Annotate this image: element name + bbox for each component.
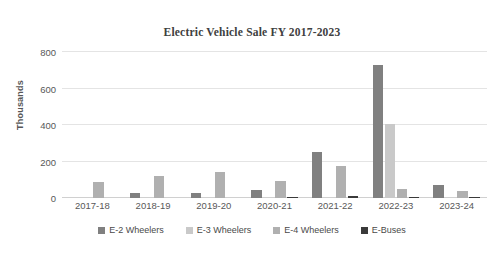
x-tick-label: 2021-22 bbox=[305, 200, 366, 211]
bar-group bbox=[305, 52, 366, 198]
bar-e-buses-2022-23[interactable] bbox=[409, 197, 420, 199]
bar-group bbox=[62, 52, 123, 198]
bar-e-4-wheelers-2022-23[interactable] bbox=[397, 189, 408, 198]
legend-label: E-2 Wheelers bbox=[109, 225, 164, 235]
bar-e-2-wheelers-2020-21[interactable] bbox=[251, 190, 262, 198]
bar-e-4-wheelers-2023-24[interactable] bbox=[457, 191, 468, 198]
legend-swatch-icon bbox=[273, 227, 280, 234]
x-tick-label: 2022-23 bbox=[366, 200, 427, 211]
bar-e-2-wheelers-2021-22[interactable] bbox=[312, 152, 323, 198]
x-tick-label: 2023-24 bbox=[426, 200, 487, 211]
bar-group bbox=[183, 52, 244, 198]
bar-layer bbox=[62, 52, 487, 198]
bar-e-4-wheelers-2021-22[interactable] bbox=[336, 166, 347, 198]
bar-e-buses-2023-24[interactable] bbox=[469, 197, 480, 199]
electric-vehicle-sale-bar-chart: Electric Vehicle Sale FY 2017-2023 Thous… bbox=[0, 0, 504, 256]
bar-e-2-wheelers-2018-19[interactable] bbox=[130, 193, 141, 198]
legend-swatch-icon bbox=[361, 227, 368, 234]
y-tick-label: 0 bbox=[10, 193, 56, 204]
bar-e-4-wheelers-2017-18[interactable] bbox=[93, 182, 104, 198]
legend-label: E-Buses bbox=[372, 225, 406, 235]
legend-swatch-icon bbox=[98, 227, 105, 234]
bar-e-3-wheelers-2022-23[interactable] bbox=[385, 124, 396, 198]
legend-item-e-4-wheelers[interactable]: E-4 Wheelers bbox=[273, 225, 339, 235]
legend-item-e-3-wheelers[interactable]: E-3 Wheelers bbox=[186, 225, 252, 235]
y-tick-label: 200 bbox=[10, 156, 56, 167]
legend-label: E-3 Wheelers bbox=[197, 225, 252, 235]
bar-e-buses-2021-22[interactable] bbox=[348, 196, 359, 198]
chart-legend: E-2 WheelersE-3 WheelersE-4 WheelersE-Bu… bbox=[0, 225, 504, 235]
x-tick-label: 2017-18 bbox=[62, 200, 123, 211]
x-tick-label: 2019-20 bbox=[183, 200, 244, 211]
bar-group bbox=[123, 52, 184, 198]
x-axis-tick-labels: 2017-182018-192019-202020-212021-222022-… bbox=[62, 200, 487, 216]
chart-title: Electric Vehicle Sale FY 2017-2023 bbox=[0, 26, 504, 38]
legend-swatch-icon bbox=[186, 227, 193, 234]
bar-group bbox=[366, 52, 427, 198]
bar-e-buses-2020-21[interactable] bbox=[287, 197, 298, 199]
y-tick-label: 400 bbox=[10, 120, 56, 131]
bar-e-4-wheelers-2018-19[interactable] bbox=[154, 176, 165, 198]
bar-e-4-wheelers-2020-21[interactable] bbox=[275, 181, 286, 198]
x-tick-label: 2018-19 bbox=[123, 200, 184, 211]
legend-item-e-2-wheelers[interactable]: E-2 Wheelers bbox=[98, 225, 164, 235]
y-axis-tick-labels: 0200400600800 bbox=[0, 52, 62, 198]
bar-group bbox=[244, 52, 305, 198]
legend-item-e-buses[interactable]: E-Buses bbox=[361, 225, 406, 235]
y-tick-label: 800 bbox=[10, 47, 56, 58]
x-tick-label: 2020-21 bbox=[244, 200, 305, 211]
y-tick-label: 600 bbox=[10, 83, 56, 94]
bar-e-2-wheelers-2019-20[interactable] bbox=[191, 193, 202, 198]
bar-group bbox=[426, 52, 487, 198]
bar-e-2-wheelers-2022-23[interactable] bbox=[373, 65, 384, 198]
bar-e-2-wheelers-2023-24[interactable] bbox=[433, 185, 444, 198]
legend-label: E-4 Wheelers bbox=[284, 225, 339, 235]
bar-e-4-wheelers-2019-20[interactable] bbox=[215, 172, 226, 198]
